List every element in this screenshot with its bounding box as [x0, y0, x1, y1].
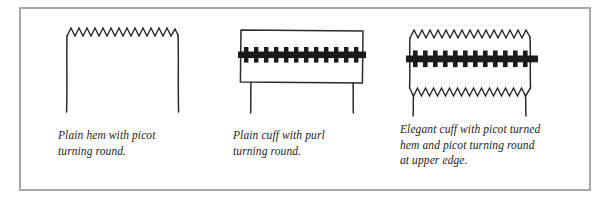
caption-plain-cuff: Plain cuff with purl turning round. [233, 128, 383, 159]
figure-plain-hem-with-picot [64, 24, 182, 116]
plain-hem-drawing [64, 24, 182, 116]
plain-cuff-drawing [234, 24, 370, 116]
right-selvedge-upper [530, 37, 531, 88]
picot-zigzag-bottom [410, 88, 531, 96]
caption-elegant-cuff: Elegant cuff with picot turned hem and p… [400, 122, 572, 169]
elegant-cuff-drawing [402, 24, 542, 119]
purl-turning-round-band [406, 51, 538, 68]
right-selvedge-line [178, 35, 179, 112]
right-leg-line [526, 96, 527, 116]
caption-plain-hem: Plain hem with picot turning round. [58, 128, 208, 159]
illustration-plate: Plain hem with picot turning round. [0, 0, 609, 199]
figure-plain-cuff-with-purl [234, 24, 370, 116]
picot-zigzag-top [410, 30, 530, 38]
picot-zigzag-top [67, 28, 178, 36]
purl-turning-round-band [238, 47, 366, 63]
figure-elegant-cuff-with-picot [402, 24, 542, 119]
